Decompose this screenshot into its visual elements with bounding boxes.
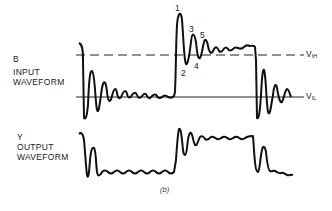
input-waveform	[79, 14, 291, 119]
output-waveform	[79, 129, 293, 177]
vil-label: VIL	[306, 91, 316, 101]
ringing-point-1: 1	[175, 3, 180, 13]
vih-label: VIH	[306, 49, 317, 59]
input-signal-label: B	[13, 54, 19, 64]
ringing-point-3: 3	[189, 24, 194, 34]
ringing-point-5: 5	[200, 30, 205, 40]
input-title-line2: WAVEFORM	[13, 77, 65, 87]
figure-caption: (b)	[160, 185, 169, 194]
ringing-point-4: 4	[194, 61, 199, 71]
output-title-line1: OUTPUT	[17, 142, 54, 152]
waveform-diagram	[0, 0, 332, 211]
ringing-point-2: 2	[181, 68, 186, 78]
output-signal-label: Y	[17, 132, 23, 142]
input-title-line1: INPUT	[13, 67, 40, 77]
output-title-line2: WAVEFORM	[17, 152, 69, 162]
